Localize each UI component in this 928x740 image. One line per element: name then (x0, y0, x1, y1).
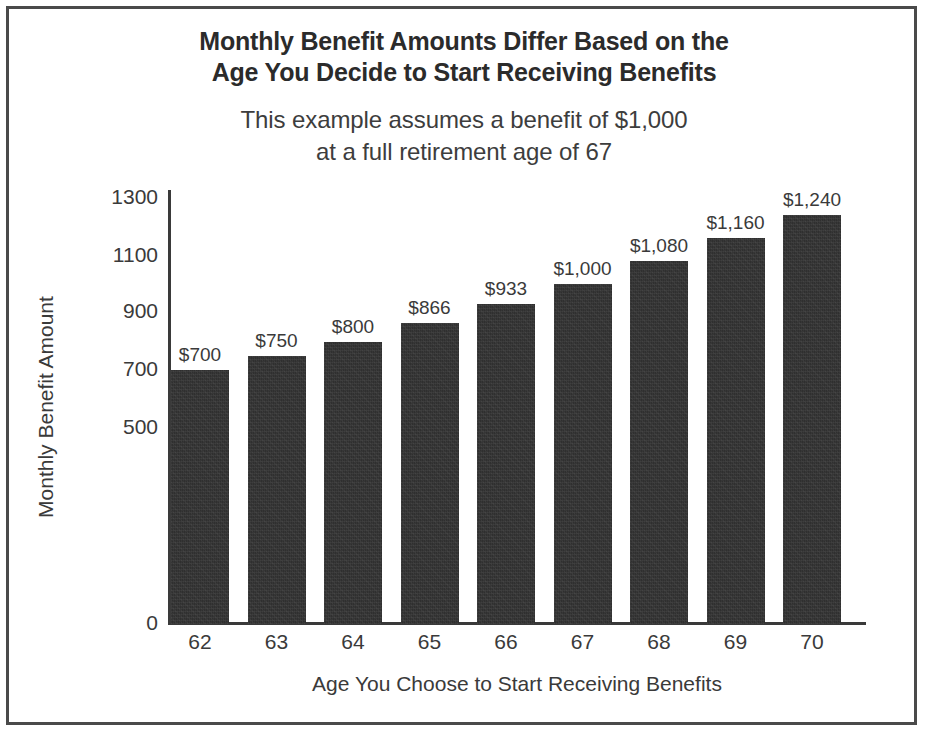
bar (171, 370, 229, 624)
bar-group: $86665 (401, 0, 459, 740)
bar-group: $80064 (324, 0, 382, 740)
bar-group: $1,08068 (630, 0, 688, 740)
bar-group: $75063 (248, 0, 306, 740)
bar-group: $93366 (477, 0, 535, 740)
bar-group: $1,24070 (783, 0, 841, 740)
bar (554, 284, 612, 624)
bar (783, 215, 841, 624)
bar-group: $1,16069 (707, 0, 765, 740)
bar-group: $1,00067 (554, 0, 612, 740)
bar-series: $70062$75063$80064$86665$93366$1,00067$1… (0, 0, 928, 740)
x-axis-tick-70: 70 (762, 630, 862, 654)
plot-area: 130011009007005000 Monthly Benefit Amoun… (0, 0, 928, 740)
chart-figure: Monthly Benefit Amounts Differ Based on … (0, 0, 928, 740)
bar (248, 356, 306, 624)
bar (401, 323, 459, 624)
bar (477, 304, 535, 624)
bar-value-label: $1,240 (742, 189, 882, 211)
bar (630, 261, 688, 624)
bar-group: $70062 (171, 0, 229, 740)
bar (707, 238, 765, 624)
bar (324, 342, 382, 624)
